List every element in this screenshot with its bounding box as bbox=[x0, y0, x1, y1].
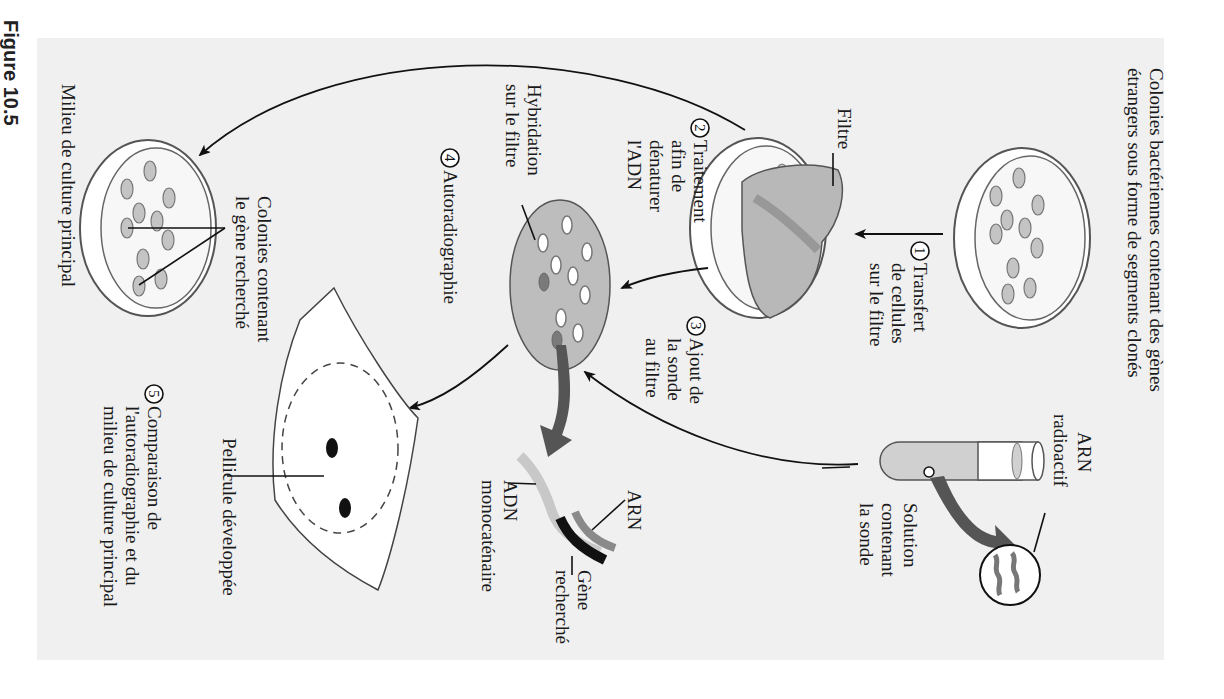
svg-text:sur le filtre: sur le filtre bbox=[502, 84, 523, 167]
svg-text:Hybridation: Hybridation bbox=[524, 84, 545, 176]
svg-text:Colonies bactériennes contenan: Colonies bactériennes contenant des gène… bbox=[1146, 68, 1167, 392]
svg-text:Pellicule développée: Pellicule développée bbox=[219, 438, 240, 596]
svg-text:Milieu de culture principal: Milieu de culture principal bbox=[58, 84, 79, 287]
svg-text:sur le filtre: sur le filtre bbox=[866, 263, 887, 346]
svg-text:Ajout de: Ajout de bbox=[686, 338, 707, 404]
step-4-label: 4 Autoradiographie bbox=[440, 149, 461, 304]
figure-label: Figure 10.5 bbox=[0, 20, 22, 126]
svg-text:Autoradiographie: Autoradiographie bbox=[440, 170, 461, 304]
svg-text:Gène: Gène bbox=[574, 570, 595, 610]
svg-text:Transfert: Transfert bbox=[910, 263, 931, 333]
master-plate-caption: Milieu de culture principal bbox=[58, 84, 79, 287]
svg-text:monocaténaire: monocaténaire bbox=[478, 480, 499, 592]
svg-text:ARN: ARN bbox=[1074, 432, 1095, 472]
svg-text:afin de: afin de bbox=[668, 140, 689, 192]
svg-text:dénaturer: dénaturer bbox=[646, 140, 667, 212]
svg-text:ARN: ARN bbox=[624, 490, 645, 530]
source-colonies-caption: Colonies bactériennes contenant des gène… bbox=[1124, 68, 1167, 392]
svg-text:4: 4 bbox=[442, 154, 458, 162]
svg-text:au filtre: au filtre bbox=[642, 338, 663, 398]
hybridized-filter bbox=[510, 200, 610, 370]
svg-text:le gène recherché: le gène recherché bbox=[232, 196, 253, 329]
svg-text:radioactif: radioactif bbox=[1050, 414, 1071, 487]
film-spot-2 bbox=[339, 498, 351, 518]
svg-text:Comparaison de: Comparaison de bbox=[144, 406, 165, 530]
svg-text:la sonde: la sonde bbox=[664, 338, 685, 401]
svg-text:l'ADN: l'ADN bbox=[624, 140, 645, 190]
svg-text:contenant: contenant bbox=[878, 503, 899, 578]
svg-text:recherché: recherché bbox=[552, 570, 573, 644]
svg-text:1: 1 bbox=[912, 247, 928, 255]
svg-text:la sonde: la sonde bbox=[856, 503, 877, 566]
svg-text:milieu de culture principal: milieu de culture principal bbox=[100, 406, 121, 607]
svg-text:de cellules: de cellules bbox=[888, 263, 909, 344]
film-spot-1 bbox=[326, 438, 338, 458]
svg-text:ADN: ADN bbox=[500, 480, 521, 521]
svg-text:Filtre: Filtre bbox=[834, 108, 855, 149]
svg-text:Figure 10.5: Figure 10.5 bbox=[0, 20, 22, 126]
svg-text:Solution: Solution bbox=[900, 503, 921, 568]
svg-text:3: 3 bbox=[688, 322, 704, 330]
svg-text:Colonies contenant: Colonies contenant bbox=[254, 196, 275, 343]
svg-text:Traitement: Traitement bbox=[690, 140, 711, 223]
svg-text:étrangers sous forme de segmen: étrangers sous forme de segments clonés bbox=[1124, 68, 1145, 378]
source-petri-dish bbox=[954, 148, 1090, 328]
svg-text:5: 5 bbox=[146, 390, 162, 398]
probe-tube bbox=[880, 442, 1044, 480]
svg-text:l'autoradiographie et du: l'autoradiographie et du bbox=[122, 406, 143, 586]
svg-text:2: 2 bbox=[692, 124, 708, 132]
radioactive-rna-magnified bbox=[980, 545, 1040, 605]
colony-hybridization-figure: Figure 10.5 Colonies bactériennes conten… bbox=[0, 0, 1224, 699]
